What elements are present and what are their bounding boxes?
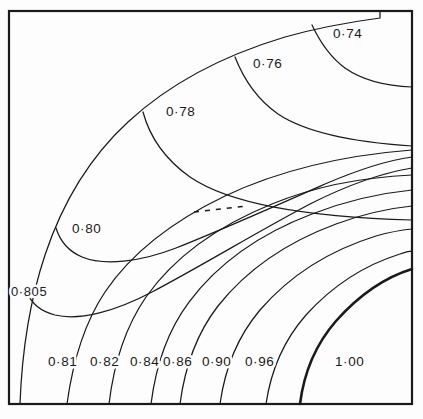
- contour-label-0-76: 0·76: [253, 56, 282, 71]
- contour-plot-canvas: 0·740·740·760·760·780·780·800·800·8050·8…: [0, 0, 423, 419]
- plot-frame: [9, 11, 412, 404]
- contour-outer-envelope: [20, 11, 380, 404]
- plot-frame-group: [9, 11, 412, 404]
- contour-label-0-8: 0·80: [72, 221, 101, 236]
- contour-096: [266, 251, 412, 404]
- contour-090: [220, 229, 412, 404]
- contour-label-0-82: 0·82: [90, 354, 119, 369]
- contour-label-0-78: 0·78: [166, 104, 195, 119]
- contour-plot-figure: 0·740·740·760·760·780·780·800·800·8050·8…: [0, 0, 423, 419]
- contour-082: [109, 175, 412, 404]
- contour-label-0-805: 0·805: [11, 284, 47, 299]
- contour-label-0-86: 0·86: [163, 354, 192, 369]
- contour-labels-group: 0·740·740·760·760·780·780·800·800·8050·8…: [11, 26, 364, 369]
- contour-dashed-segment: [194, 206, 246, 212]
- contour-label-0-96: 0·96: [245, 354, 274, 369]
- contour-0805: [27, 168, 412, 317]
- contour-lines-group: [20, 11, 412, 404]
- contour-label-0-84: 0·84: [130, 354, 159, 369]
- contour-label-0-74: 0·74: [333, 26, 362, 41]
- contour-label-0-81: 0·81: [48, 354, 77, 369]
- contour-084: [151, 190, 412, 404]
- contour-100: [300, 269, 412, 404]
- contour-label-1: 1·00: [335, 354, 364, 369]
- dashed-segment-group: [194, 206, 246, 212]
- contour-label-0-9: 0·90: [202, 354, 231, 369]
